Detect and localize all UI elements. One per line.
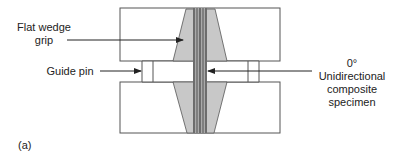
panel-label: (a) [18,139,31,152]
composite-specimen [193,8,207,133]
specimen-label: 0° Unidirectional composite specimen [312,57,392,109]
guide-pin-label: Guide pin [44,65,96,78]
flat-wedge-grip-label: Flat wedge grip [14,21,74,47]
